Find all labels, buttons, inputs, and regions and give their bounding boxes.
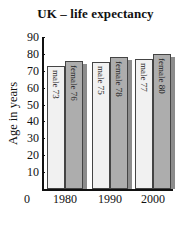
x-tick-label: 1990 <box>90 192 130 207</box>
y-axis-line <box>42 37 44 190</box>
bar-value-label: male 73 <box>51 70 61 99</box>
y-tick-label: 60 <box>9 82 39 94</box>
y-tick-label: 10 <box>9 166 39 178</box>
x-axis-line <box>42 189 173 191</box>
bar-value-label: female 80 <box>157 58 167 94</box>
y-tick <box>42 105 45 106</box>
bar-value-label: male 75 <box>96 66 106 95</box>
y-tick-label: 0 <box>0 193 30 205</box>
y-tick-label: 20 <box>9 149 39 161</box>
x-tick-label: 2000 <box>133 192 173 207</box>
y-tick <box>42 189 45 190</box>
y-tick <box>42 138 45 139</box>
bar-value-label: male 77 <box>139 63 149 92</box>
y-tick <box>42 37 45 38</box>
bar-male-2000: male 77 <box>135 59 153 189</box>
bar-shadow <box>171 57 175 189</box>
y-tick <box>42 88 45 89</box>
bar-female-2000: female 80 <box>153 54 171 189</box>
y-tick-label: 40 <box>9 115 39 127</box>
bar-shadow <box>83 64 87 189</box>
bar-value-label: female 76 <box>69 65 79 101</box>
y-tick <box>42 172 45 173</box>
y-tick-label: 70 <box>9 65 39 77</box>
y-tick-label: 50 <box>9 99 39 111</box>
y-tick <box>42 71 45 72</box>
bar-value-label: female 78 <box>114 61 124 97</box>
bar-female-1980: female 76 <box>65 61 83 189</box>
chart-title: UK – life expectancy <box>0 6 191 22</box>
y-tick <box>42 155 45 156</box>
y-tick <box>42 54 45 55</box>
bar-male-1980: male 73 <box>47 66 65 189</box>
bar-female-1990: female 78 <box>110 57 128 189</box>
y-tick-label: 30 <box>9 132 39 144</box>
y-tick <box>42 121 45 122</box>
bar-shadow <box>128 60 132 189</box>
bar-male-1990: male 75 <box>92 62 110 189</box>
y-tick-label: 90 <box>9 31 39 43</box>
y-tick-label: 80 <box>9 48 39 60</box>
x-tick-label: 1980 <box>45 192 85 207</box>
